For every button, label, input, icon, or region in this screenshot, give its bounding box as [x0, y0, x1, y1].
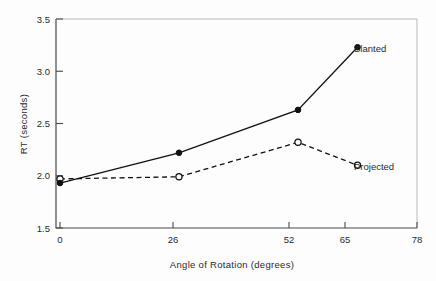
projected-line	[60, 142, 358, 179]
y-tick-label-2-5: 2.5	[37, 118, 50, 129]
y-tick-label-2-0: 2.0	[37, 170, 50, 181]
x-tick-marks	[60, 222, 417, 228]
x-tick-label-65: 65	[340, 234, 351, 245]
slanted-point-52	[295, 107, 301, 113]
projected-point-52	[295, 139, 301, 145]
projected-point-26	[176, 174, 182, 180]
series-projected	[57, 139, 361, 182]
line-chart-svg: 3.5 3.0 2.5 2.0 1.5 0 26 52 65 78 Angle …	[0, 0, 436, 281]
series-label-projected: Projected	[354, 161, 394, 172]
y-tick-marks	[56, 19, 63, 228]
x-tick-label-78: 78	[412, 234, 423, 245]
y-tick-label-3-5: 3.5	[37, 14, 50, 25]
slanted-line	[60, 47, 358, 183]
series-label-slanted: Slanted	[354, 43, 386, 54]
y-tick-label-3-0: 3.0	[37, 66, 50, 77]
y-tick-label-1-5: 1.5	[37, 223, 50, 234]
x-tick-label-26: 26	[168, 234, 179, 245]
chart-figure: 3.5 3.0 2.5 2.0 1.5 0 26 52 65 78 Angle …	[0, 0, 436, 281]
slanted-point-26	[176, 150, 182, 156]
slanted-point-0	[57, 180, 63, 186]
series-slanted	[57, 44, 360, 185]
x-axis-title: Angle of Rotation (degrees)	[170, 259, 294, 270]
x-tick-label-0: 0	[57, 234, 62, 245]
x-tick-label-52: 52	[284, 234, 295, 245]
y-axis-title: RT (seconds)	[18, 94, 29, 154]
